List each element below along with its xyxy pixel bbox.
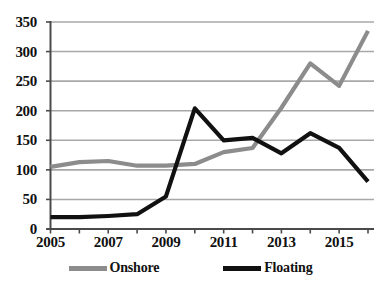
x-axis-tick-label: 2005 (21, 233, 81, 251)
x-axis-tick-label: 2007 (78, 233, 138, 251)
x-axis-tick-text: 2011 (210, 234, 238, 250)
x-axis-label-group: 200520072009201120132015 (0, 0, 381, 284)
x-axis-tick-text: 2013 (267, 234, 296, 250)
legend-item-floating: Floating (223, 261, 312, 275)
legend-label-floating: Floating (264, 261, 312, 275)
x-axis-tick-label: 2011 (194, 233, 254, 251)
line-chart: 350300250200150100500 200520072009201120… (0, 0, 381, 284)
x-axis-tick-label: 2013 (251, 233, 311, 251)
x-axis-tick-label: 2009 (136, 233, 196, 251)
legend-swatch-onshore (69, 266, 107, 271)
legend-label-onshore: Onshore (110, 261, 160, 275)
x-axis-tick-text: 2005 (36, 234, 65, 250)
legend-item-onshore: Onshore (69, 261, 160, 275)
x-axis-tick-text: 2015 (325, 234, 354, 250)
x-axis-tick-label: 2015 (309, 233, 369, 251)
x-axis-tick-text: 2009 (152, 234, 181, 250)
chart-legend: Onshore Floating (0, 256, 381, 280)
legend-swatch-floating (223, 266, 261, 271)
x-axis-tick-text: 2007 (94, 234, 123, 250)
